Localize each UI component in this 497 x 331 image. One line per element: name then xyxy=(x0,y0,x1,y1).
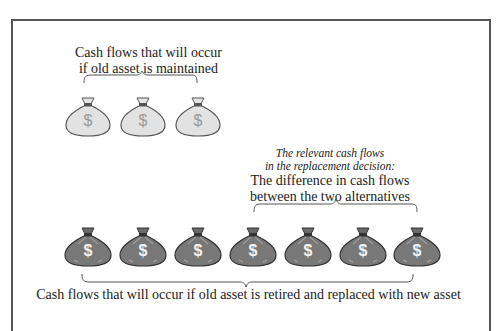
cash-bag-icon xyxy=(175,228,221,266)
top-brace xyxy=(84,71,197,83)
relevant-brace xyxy=(254,199,417,212)
cash-bag-icon xyxy=(340,228,386,266)
cash-bag-icon xyxy=(285,228,331,266)
cash-bag-icon xyxy=(394,228,440,266)
cash-bag-icon xyxy=(66,98,110,136)
cash-bag-icon xyxy=(176,98,220,136)
cash-bag-icon xyxy=(121,98,165,136)
cash-bag-icon xyxy=(120,228,166,266)
cash-bag-icon xyxy=(230,228,276,266)
cash-bag-icon xyxy=(65,228,111,266)
bottom-brace xyxy=(82,274,413,287)
